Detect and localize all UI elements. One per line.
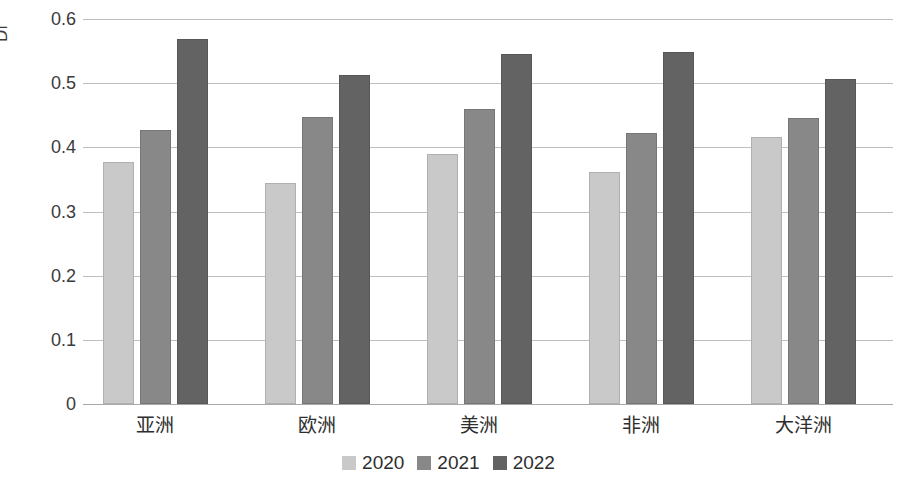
bar	[788, 118, 819, 404]
y-axis-tick-label: 0	[24, 394, 76, 415]
bar	[265, 183, 296, 404]
legend-label: 2021	[437, 452, 479, 474]
y-axis-tick-label: 0.2	[24, 265, 76, 286]
plot-area	[83, 19, 893, 404]
x-axis-category-label: 美洲	[460, 410, 498, 437]
bar	[103, 162, 134, 404]
x-axis-category-label: 欧洲	[298, 410, 336, 437]
gridline	[83, 404, 893, 405]
legend-swatch-icon	[342, 456, 356, 470]
legend-item[interactable]: 2020	[342, 452, 404, 474]
y-axis-tick-label: 0.4	[24, 137, 76, 158]
bar	[464, 109, 495, 404]
chart-legend: 202020212022	[0, 452, 897, 474]
y-axis-title: Di	[0, 0, 14, 42]
bar	[626, 133, 657, 404]
legend-item[interactable]: 2022	[493, 452, 555, 474]
bar	[751, 137, 782, 404]
y-axis-tick-label: 0.3	[24, 201, 76, 222]
bar	[140, 130, 171, 404]
legend-swatch-icon	[493, 456, 507, 470]
legend-swatch-icon	[417, 456, 431, 470]
bar	[589, 172, 620, 404]
legend-item[interactable]: 2021	[417, 452, 479, 474]
x-axis-category-label: 大洋洲	[775, 410, 832, 437]
legend-label: 2022	[513, 452, 555, 474]
bar	[663, 52, 694, 404]
x-axis-category-label: 亚洲	[136, 410, 174, 437]
gridline	[83, 19, 893, 20]
x-axis-category-label: 非洲	[622, 410, 660, 437]
legend-label: 2020	[362, 452, 404, 474]
bar	[825, 79, 856, 404]
y-axis-tick-label: 0.1	[24, 329, 76, 350]
y-axis-tick-label: 0.6	[24, 9, 76, 30]
x-axis-category-labels: 亚洲欧洲美洲非洲大洋洲	[83, 410, 893, 444]
y-axis-tick-label: 0.5	[24, 73, 76, 94]
bar	[427, 154, 458, 404]
bar	[302, 117, 333, 404]
bar-chart: Di 0.60.50.40.30.20.10 亚洲欧洲美洲非洲大洋洲 20202…	[0, 0, 897, 480]
bar	[501, 54, 532, 404]
bar	[339, 75, 370, 404]
y-axis-tick-labels: 0.60.50.40.30.20.10	[18, 19, 76, 404]
bar	[177, 39, 208, 404]
